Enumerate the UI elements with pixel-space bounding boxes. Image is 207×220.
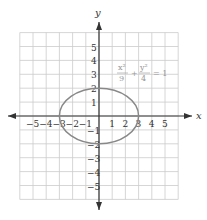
- svg-text:9: 9: [119, 74, 124, 83]
- svg-text:4: 4: [141, 74, 146, 83]
- y-tick-label: −1: [87, 126, 100, 136]
- x-tick-label: 4: [149, 119, 155, 129]
- x-axis-label: x: [196, 110, 202, 121]
- x-tick-label: −4: [39, 119, 53, 129]
- y-axis-label: y: [94, 7, 101, 18]
- svg-text:+: +: [131, 69, 138, 78]
- y-tick-label: −5: [87, 182, 101, 192]
- ellipse-graph: x y −5−4−3−2−112345 54321−1−2−3−4−5 x² 9…: [0, 0, 207, 220]
- x-tick-label: 5: [162, 119, 168, 129]
- x-axis-arrow-left-icon: [8, 113, 16, 119]
- svg-text:x²: x²: [118, 63, 126, 72]
- x-tick-label: −5: [26, 119, 40, 129]
- y-tick-label: −3: [87, 154, 101, 164]
- x-tick-label: 1: [109, 119, 115, 129]
- x-axis-arrow-right-icon: [184, 113, 192, 119]
- equation-annotation: x² 9 + y² 4 = 1: [117, 63, 167, 83]
- x-tick-label: −2: [66, 119, 79, 129]
- svg-text:y²: y²: [139, 63, 148, 72]
- svg-text:= 1: = 1: [153, 69, 167, 78]
- y-tick-label: −4: [87, 168, 101, 178]
- y-tick-label: −2: [87, 140, 100, 150]
- y-tick-label: 1: [91, 98, 97, 108]
- x-tick-label: 2: [122, 119, 128, 129]
- y-axis-arrow-up-icon: [96, 22, 102, 30]
- y-tick-label: 5: [91, 43, 97, 53]
- y-tick-label: 3: [91, 70, 97, 80]
- y-axis-arrow-down-icon: [96, 202, 102, 210]
- y-tick-label: 4: [91, 56, 97, 66]
